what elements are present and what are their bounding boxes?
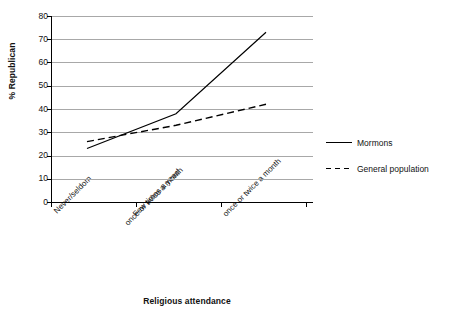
series-line-mormons [87,32,266,148]
y-tick-marks [47,17,51,203]
gridlines [51,17,313,180]
chart-svg [0,0,454,318]
chart-container: % Republican Religious attendance 80 70 … [0,0,454,318]
